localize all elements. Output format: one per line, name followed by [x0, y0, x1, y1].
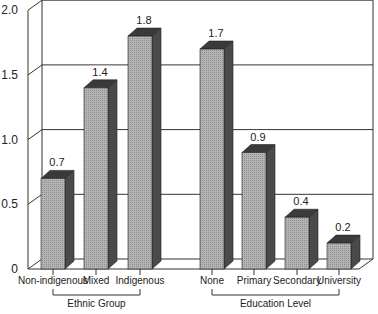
bar: 0.4 [285, 195, 318, 269]
y-tick-label: 0 [11, 262, 18, 276]
bar: 0.9 [242, 131, 275, 269]
group-bracket [53, 289, 140, 295]
group-label: Education Level [240, 298, 311, 309]
y-tick-label: 1.0 [1, 133, 18, 147]
bar: 0.2 [327, 221, 360, 269]
x-axis-categories: Non-indigenousMixedIndigenousNonePrimary… [18, 269, 361, 286]
category-label: University [317, 275, 361, 286]
value-label: 0.9 [250, 131, 265, 143]
y-tick-label: 2.0 [1, 3, 18, 17]
value-label: 1.4 [92, 66, 107, 78]
category-label: Secondary [273, 275, 321, 286]
y-tick-label: 1.5 [1, 68, 18, 82]
bars: 0.71.41.81.70.90.40.2 [41, 14, 360, 269]
grid-side [28, 130, 42, 140]
category-label: Primary [237, 275, 271, 286]
bar: 1.7 [200, 27, 233, 269]
grid-side [28, 0, 42, 10]
category-label: Non-indigenous [18, 275, 88, 286]
value-label: 1.7 [208, 27, 223, 39]
group-bracket [212, 289, 339, 295]
value-label: 0.2 [335, 221, 350, 233]
category-label: Mixed [83, 275, 110, 286]
bar: 1.4 [84, 66, 117, 269]
grid-side [28, 65, 42, 75]
group-label: Ethnic Group [67, 298, 126, 309]
y-axis-ticks: 00.51.01.52.0 [1, 3, 18, 276]
grid-side [28, 259, 42, 269]
group-labels: Ethnic GroupEducation Level [53, 289, 339, 309]
category-label: None [200, 275, 224, 286]
bar-chart: 00.51.01.52.0 0.71.41.81.70.90.40.2 Non-… [0, 0, 378, 314]
value-label: 1.8 [136, 14, 151, 26]
value-label: 0.4 [293, 195, 308, 207]
bar: 0.7 [41, 156, 74, 269]
category-label: Indigenous [116, 275, 165, 286]
grid-side [28, 194, 42, 204]
y-tick-label: 0.5 [1, 197, 18, 211]
bar: 1.8 [128, 14, 161, 269]
value-label: 0.7 [49, 156, 64, 168]
